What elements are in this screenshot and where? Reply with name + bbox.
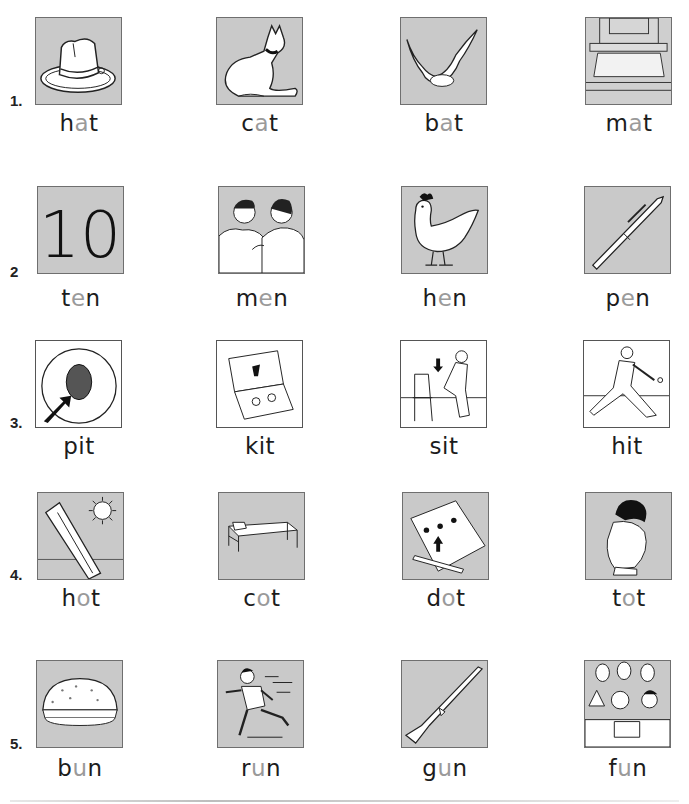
fun-picture — [584, 660, 671, 748]
word-vowel: a — [439, 110, 454, 136]
word-vowel: i — [442, 433, 449, 459]
pen-icon — [585, 187, 670, 273]
word-onset: h — [61, 585, 76, 611]
word-pit: pit — [19, 433, 139, 459]
word-coda: t — [456, 585, 466, 611]
word-onset: t — [61, 285, 71, 311]
cot-picture — [218, 492, 305, 580]
number-ten-picture: 10 — [37, 186, 124, 274]
word-vowel: e — [71, 285, 86, 311]
word-onset: f — [609, 755, 618, 781]
pit-picture — [35, 340, 122, 428]
row-label-4: 4. — [10, 566, 23, 583]
word-coda: t — [91, 585, 101, 611]
peach-pit-icon — [36, 341, 121, 427]
word-coda: t — [89, 110, 99, 136]
word-onset: g — [422, 755, 437, 781]
word-vowel: o — [622, 585, 637, 611]
word-onset: k — [245, 433, 259, 459]
word-cot: cot — [202, 585, 322, 611]
word-onset: m — [236, 285, 259, 311]
cat-icon — [217, 18, 302, 104]
word-onset: d — [426, 585, 441, 611]
word-tot: tot — [569, 585, 689, 611]
word-hat: hat — [19, 110, 139, 136]
row-label-5: 5. — [10, 735, 23, 752]
hat-icon — [36, 18, 121, 104]
word-run: run — [201, 755, 321, 781]
thermometer-sun-icon — [38, 493, 123, 579]
word-fun: fun — [568, 755, 688, 781]
doormat-icon — [586, 18, 671, 104]
word-vowel: u — [617, 755, 632, 781]
word-ten: ten — [21, 285, 141, 311]
word-coda: n — [266, 755, 281, 781]
gun-picture — [401, 660, 488, 748]
kit-icon — [217, 341, 302, 427]
men-icon — [219, 187, 304, 273]
men-picture — [218, 186, 305, 274]
word-vowel: o — [76, 585, 91, 611]
word-vowel: a — [255, 110, 270, 136]
word-hit: hit — [567, 433, 687, 459]
word-coda: n — [86, 285, 101, 311]
word-vowel: u — [251, 755, 266, 781]
row-label-2: 2 — [10, 263, 18, 280]
word-coda: n — [635, 285, 650, 311]
kit-picture — [216, 340, 303, 428]
bat-icon — [401, 18, 486, 104]
word-onset: p — [63, 433, 78, 459]
word-coda: n — [453, 755, 468, 781]
word-vowel: o — [257, 585, 272, 611]
hat-picture — [35, 17, 122, 105]
word-vowel: e — [259, 285, 274, 311]
rifle-icon — [402, 661, 487, 747]
word-onset: h — [611, 433, 626, 459]
word-vowel: o — [442, 585, 457, 611]
word-vowel: e — [438, 285, 453, 311]
tot-picture — [585, 492, 672, 580]
word-coda: t — [636, 585, 646, 611]
word-onset: h — [59, 110, 74, 136]
word-bun: bun — [20, 755, 140, 781]
word-onset: p — [606, 285, 621, 311]
word-coda: n — [88, 755, 103, 781]
word-pen: pen — [568, 285, 688, 311]
word-coda: n — [632, 755, 647, 781]
word-onset: m — [605, 110, 628, 136]
word-vowel: e — [621, 285, 636, 311]
hen-picture — [401, 186, 488, 274]
number-ten-icon: 10 — [38, 187, 123, 273]
word-coda: t — [643, 110, 653, 136]
word-coda: t — [271, 585, 281, 611]
bun-icon — [37, 661, 122, 747]
word-hot: hot — [21, 585, 141, 611]
word-onset: b — [424, 110, 439, 136]
word-sit: sit — [384, 433, 504, 459]
word-men: men — [202, 285, 322, 311]
batter-icon — [584, 341, 669, 427]
word-vowel: u — [437, 755, 452, 781]
word-onset: r — [241, 755, 251, 781]
word-coda: t — [454, 110, 464, 136]
bun-picture — [36, 660, 123, 748]
cot-icon — [219, 493, 304, 579]
sit-picture — [400, 340, 487, 428]
pen-picture — [584, 186, 671, 274]
word-coda: t — [269, 110, 279, 136]
word-bat: bat — [384, 110, 504, 136]
word-mat: mat — [569, 110, 689, 136]
run-picture — [217, 660, 304, 748]
cat-picture — [216, 17, 303, 105]
word-onset: c — [243, 585, 256, 611]
mat-picture — [585, 17, 672, 105]
bottom-divider — [10, 800, 679, 802]
word-onset: s — [430, 433, 442, 459]
toddler-icon — [586, 493, 671, 579]
word-vowel: u — [72, 755, 87, 781]
paper-dots-icon — [403, 493, 488, 579]
hit-picture — [583, 340, 670, 428]
word-onset: h — [423, 285, 438, 311]
row-label-3: 3. — [10, 414, 23, 431]
sit-icon — [401, 341, 486, 427]
